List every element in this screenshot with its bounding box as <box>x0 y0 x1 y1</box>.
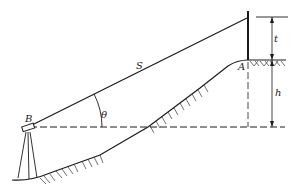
label-b: B <box>24 113 32 124</box>
terrain <box>12 60 286 184</box>
label-a: A <box>237 61 245 72</box>
label-s: S <box>136 60 143 71</box>
telescope-icon <box>22 123 35 131</box>
dimension-lines <box>256 17 288 127</box>
label-theta: θ <box>101 109 107 120</box>
trig-leveling-diagram: S A B θ t h <box>0 0 291 192</box>
sight-line <box>30 18 247 126</box>
label-t: t <box>274 33 279 44</box>
instrument <box>18 123 37 179</box>
label-h: h <box>275 87 281 98</box>
